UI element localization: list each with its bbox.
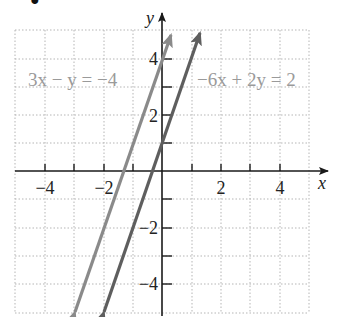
equation-label-1: 3x − y = −4 — [28, 69, 118, 90]
y-tick-label: 4 — [149, 49, 158, 69]
y-tick-label: −4 — [139, 274, 158, 294]
x-tick-label: 2 — [217, 178, 226, 198]
y-axis-label: y — [144, 8, 154, 28]
y-tick-label: −2 — [139, 218, 158, 238]
equation-label-2: −6x + 2y = 2 — [197, 69, 296, 90]
x-tick-label: 4 — [276, 178, 285, 198]
graph-figure: ● — [0, 0, 340, 317]
x-tick-label: −2 — [94, 178, 113, 198]
x-tick-label: −4 — [35, 178, 54, 198]
line-neg6x-plus-2y-eq-2 — [104, 33, 200, 312]
caption-fragment: ● — [30, 0, 40, 9]
y-tick-label: 2 — [149, 106, 158, 126]
x-axis-label: x — [317, 173, 326, 193]
coordinate-plane: −4 −2 2 4 4 2 −2 −4 x y 3x − y = −4 −6x … — [0, 0, 340, 317]
